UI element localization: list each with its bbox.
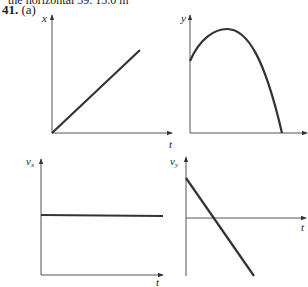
graph-x-vs-t: x t	[41, 12, 173, 150]
g4-data-line	[186, 178, 254, 276]
g3-y-label: vx	[26, 155, 35, 169]
g1-y-label: x	[41, 12, 47, 24]
g3-t-label: t	[156, 276, 160, 287]
g4-t-label: t	[301, 221, 305, 233]
g1-data-line	[52, 50, 140, 133]
kinematics-graphs: x t y vx t vy t	[0, 0, 308, 287]
g3-data-line	[41, 215, 163, 216]
g2-data-curve	[190, 29, 282, 133]
graph-vx-vs-t: vx t	[26, 155, 163, 287]
graph-y-vs-t: y	[180, 12, 307, 133]
g1-t-label: t	[169, 138, 173, 150]
g4-y-label: vy	[170, 155, 179, 169]
graph-vy-vs-t: vy t	[170, 155, 306, 276]
g2-y-label: y	[180, 12, 186, 24]
